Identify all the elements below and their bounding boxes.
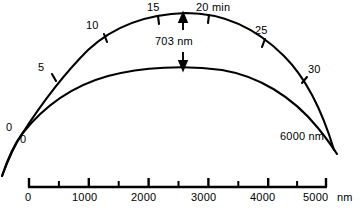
trajectory-plot <box>0 0 360 215</box>
separation-label: 703 nm <box>155 36 193 47</box>
axis-label-1000: 1000 <box>72 192 97 203</box>
curve-tick-label-20min: 20 min <box>196 2 230 13</box>
curve-tick-label-10: 10 <box>86 20 99 31</box>
axis-label-0: 0 <box>25 192 31 203</box>
axis-unit-label: nm <box>337 192 353 203</box>
figure-canvas: 5 10 15 20 min 25 30 0 0 703 nm 6000 nm … <box>0 0 360 215</box>
lower-curve-endpoint-label: 6000 nm <box>280 131 324 142</box>
axis-label-2000: 2000 <box>131 192 156 203</box>
axis-label-4000: 4000 <box>250 192 275 203</box>
distance-scale-bar <box>28 178 327 187</box>
curve-tick-label-25: 25 <box>255 25 268 36</box>
lower-curve-path <box>2 67 337 176</box>
origin-label-upper: 0 <box>6 122 12 133</box>
axis-label-5000: 5000 <box>303 192 328 203</box>
axis-label-3000: 3000 <box>191 192 216 203</box>
origin-label-lower: 0 <box>20 134 26 145</box>
curve-tick-label-30: 30 <box>308 64 321 75</box>
curve-tick-label-5: 5 <box>38 62 44 73</box>
curve-tick-label-15: 15 <box>147 2 160 13</box>
